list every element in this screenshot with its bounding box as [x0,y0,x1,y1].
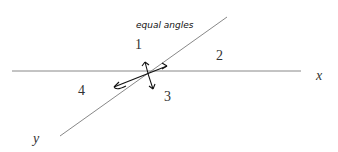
angle-label-2: 2 [216,48,223,63]
axis-label-x: x [315,68,323,83]
axis-label-y: y [31,131,40,146]
handwritten-angle-arrows [114,62,167,89]
angle-label-3: 3 [164,89,171,104]
annotation-equal-angles: equal angles [136,20,194,30]
line-y [60,17,227,136]
intersecting-lines-diagram: equal angles 1 2 3 4 x y [0,0,338,152]
angle-label-4: 4 [78,83,85,98]
angle-label-1: 1 [135,37,142,52]
